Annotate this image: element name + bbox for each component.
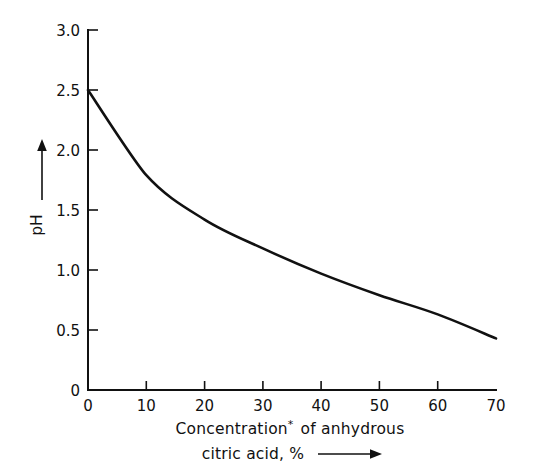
- x-axis-title-of-anhydrous: of anhydrous: [301, 420, 405, 438]
- x-tick-label-20: 20: [195, 397, 214, 415]
- x-tick-label-10: 10: [137, 397, 156, 415]
- x-tick-label-50: 50: [370, 397, 389, 415]
- y-tick-label-3-0: 3.0: [56, 22, 80, 40]
- y-tick-label-2-5: 2.5: [56, 82, 80, 100]
- chart-figure: 3.0 2.5 2.0 1.5 1.0 0.5 0 0 10 20 30 40 …: [0, 0, 533, 476]
- y-axis-title: pH: [28, 214, 46, 236]
- y-tick-label-1-5: 1.5: [56, 202, 80, 220]
- y-tick-label-0-5: 0.5: [56, 322, 80, 340]
- x-tick-label-40: 40: [312, 397, 331, 415]
- y-tick-label-0: 0: [70, 382, 80, 400]
- x-axis-title-line2: citric acid, %: [202, 445, 305, 463]
- y-tick-label-1-0: 1.0: [56, 262, 80, 280]
- footnote-asterisk: *: [288, 418, 294, 431]
- x-tick-label-60: 60: [428, 397, 447, 415]
- x-tick-label-70: 70: [486, 397, 505, 415]
- x-tick-label-30: 30: [253, 397, 272, 415]
- x-axis-title-word-concentration: Concentration: [176, 420, 288, 438]
- ph-concentration-line-chart: 3.0 2.5 2.0 1.5 1.0 0.5 0 0 10 20 30 40 …: [0, 0, 533, 476]
- x-tick-label-0: 0: [83, 397, 93, 415]
- y-tick-label-2-0: 2.0: [56, 142, 80, 160]
